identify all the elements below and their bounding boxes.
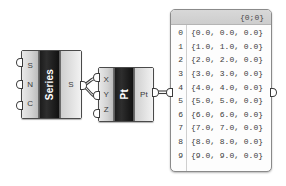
pt-name-label: Pt — [119, 89, 130, 99]
grasshopper-canvas[interactable]: S N C Series S X Y Z Pt Pt {0; — [0, 0, 286, 186]
row-value: {7.0, 7.0, 0.0} — [186, 123, 263, 132]
pt-input-x-nub[interactable] — [93, 73, 100, 82]
row-value: {0.0, 0.0, 0.0} — [186, 28, 263, 37]
pt-input-y-nub[interactable] — [93, 91, 100, 100]
row-index: 5 — [171, 96, 186, 105]
pt-nameplate[interactable]: Pt — [114, 68, 133, 121]
panel-path-label: {0;0} — [240, 13, 264, 22]
row-value: {3.0, 3.0, 0.0} — [186, 69, 263, 78]
series-input-n-nub[interactable] — [16, 80, 23, 89]
panel-gutter-divider — [186, 25, 187, 171]
panel-output-nub[interactable] — [270, 88, 277, 97]
series-name-label: Series — [44, 69, 55, 100]
row-index: 9 — [171, 151, 186, 160]
pt-input-z-nub[interactable] — [93, 109, 100, 118]
pt-output-pt-label[interactable]: Pt — [140, 91, 148, 99]
row-value: {8.0, 8.0, 0.0} — [186, 137, 263, 146]
series-outputs: S — [60, 51, 81, 118]
series-input-s-nub[interactable] — [16, 58, 23, 67]
pt-input-y-label[interactable]: Y — [104, 91, 109, 99]
pt-outputs: Pt — [134, 68, 153, 121]
series-output-s-label[interactable]: S — [68, 81, 73, 89]
panel-input-nub[interactable] — [166, 88, 173, 97]
data-panel[interactable]: {0;0} 0 {0.0, 0.0, 0.0} 1 {1.0, 1.0, 0.0… — [170, 9, 272, 172]
row-index: 7 — [171, 123, 186, 132]
series-nameplate[interactable]: Series — [39, 51, 59, 118]
row-index: 6 — [171, 110, 186, 119]
series-input-n-label[interactable]: N — [27, 81, 33, 89]
row-value: {1.0, 1.0, 0.0} — [186, 42, 263, 51]
panel-body: 0 {0.0, 0.0, 0.0} 1 {1.0, 1.0, 0.0} 2 {2… — [171, 25, 271, 171]
component-series[interactable]: S N C Series S — [21, 50, 82, 119]
row-index: 4 — [171, 83, 186, 92]
row-value: {9.0, 9.0, 0.0} — [186, 151, 263, 160]
row-value: {5.0, 5.0, 0.0} — [186, 96, 263, 105]
series-output-s-nub[interactable] — [80, 81, 87, 90]
pt-input-x-label[interactable]: X — [104, 76, 109, 84]
row-value: {4.0, 4.0, 0.0} — [186, 83, 263, 92]
row-index: 0 — [171, 28, 186, 37]
row-value: {2.0, 2.0, 0.0} — [186, 55, 263, 64]
series-input-s-label[interactable]: S — [28, 62, 33, 70]
row-index: 3 — [171, 69, 186, 78]
row-index: 8 — [171, 137, 186, 146]
series-input-c-nub[interactable] — [16, 101, 23, 110]
row-index: 1 — [171, 42, 186, 51]
row-index: 2 — [171, 55, 186, 64]
pt-input-z-label[interactable]: Z — [104, 106, 109, 114]
series-inputs: S N C — [22, 51, 39, 118]
pt-output-nub[interactable] — [152, 88, 159, 97]
row-value: {6.0, 6.0, 0.0} — [186, 110, 263, 119]
panel-header: {0;0} — [171, 10, 271, 25]
component-construct-point[interactable]: X Y Z Pt Pt — [98, 67, 154, 122]
series-input-c-label[interactable]: C — [27, 100, 33, 108]
pt-inputs: X Y Z — [99, 68, 114, 121]
